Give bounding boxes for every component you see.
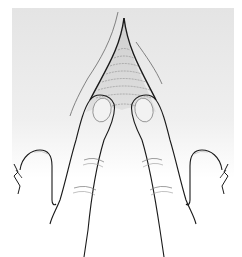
illustration-svg xyxy=(0,0,242,257)
finger-illustration xyxy=(0,0,242,257)
